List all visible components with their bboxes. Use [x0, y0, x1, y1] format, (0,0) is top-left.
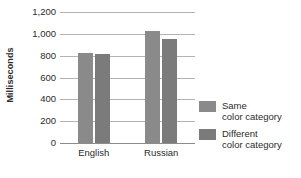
x-axis-tick-labels: EnglishRussian — [60, 147, 195, 163]
legend-label-line1: Different — [222, 128, 258, 139]
legend-label-line2: color category — [222, 139, 282, 150]
legend-label-line2: color category — [222, 111, 282, 122]
x-axis-tick-label: English — [64, 147, 124, 158]
y-axis-tick-label: 200 — [18, 116, 56, 126]
y-axis-tick-label: 400 — [18, 94, 56, 104]
y-axis-tick-label: 800 — [18, 51, 56, 61]
legend-swatch — [199, 101, 216, 112]
legend-item[interactable]: Samecolor category — [199, 100, 299, 122]
gridline — [60, 12, 195, 13]
legend-swatch — [199, 129, 216, 140]
legend-item[interactable]: Differentcolor category — [199, 128, 299, 150]
bar — [162, 39, 177, 143]
bar — [95, 54, 110, 143]
chart-figure: Milliseconds 1,2001,0008006004002000 Eng… — [0, 0, 301, 178]
y-axis-tick-label: 1,200 — [18, 7, 56, 17]
bar — [78, 53, 93, 143]
gridline — [60, 143, 195, 144]
x-axis-tick-label: Russian — [131, 147, 191, 158]
legend-label-line1: Same — [222, 100, 247, 111]
y-axis-tick-label: 600 — [18, 73, 56, 83]
plot-area — [60, 12, 195, 143]
y-axis-tick-label: 1,000 — [18, 29, 56, 39]
legend: Samecolor categoryDifferentcolor categor… — [199, 100, 299, 156]
legend-label: Differentcolor category — [222, 128, 282, 150]
bar — [145, 31, 160, 143]
legend-label: Samecolor category — [222, 100, 282, 122]
gridline — [60, 34, 195, 35]
y-axis-tick-labels: 1,2001,0008006004002000 — [16, 12, 56, 143]
y-axis-title-text: Milliseconds — [5, 47, 15, 102]
y-axis-tick-label: 0 — [18, 138, 56, 148]
